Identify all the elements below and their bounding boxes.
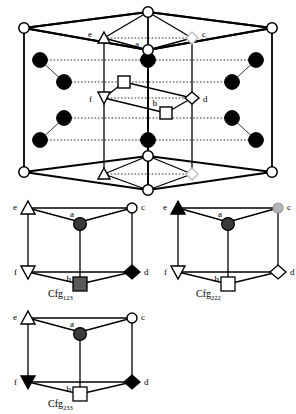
main-label-a: a xyxy=(135,39,139,49)
cfg233-label-d: d xyxy=(144,377,149,387)
cfg222-label-b: b xyxy=(215,274,220,284)
cfg123-label-c: c xyxy=(141,202,145,212)
main-site-b xyxy=(160,107,172,119)
cfg222-label-f: f xyxy=(164,267,167,277)
main-site-bottom-triangle xyxy=(98,168,110,179)
main-label-f: f xyxy=(89,94,92,104)
cfg233-site-a xyxy=(74,328,87,341)
figure-root: e a c f b d xyxy=(0,0,296,414)
cfg123-caption: Cfg123 xyxy=(48,288,73,301)
cfg222-caption-subscript: 222 xyxy=(211,294,221,301)
main-site-bottom-diamond xyxy=(186,168,198,180)
main-site-e xyxy=(98,32,110,43)
cfg233-label-e: e xyxy=(13,312,17,322)
main-label-c: c xyxy=(202,29,206,39)
cfg233-label-c: c xyxy=(141,312,145,322)
cfg123-site-b xyxy=(73,277,87,291)
cfg123-caption-name: Cfg xyxy=(48,288,63,299)
cfg123-label-f: f xyxy=(14,267,17,277)
cfg222-site-c xyxy=(273,203,283,213)
config-cfg-123: e a c f b d Cfg123 xyxy=(13,201,149,301)
cfg222-caption-name: Cfg xyxy=(196,288,211,299)
config-cfg-233: e a c f b d Cfg233 xyxy=(13,311,149,411)
cfg222-label-d: d xyxy=(290,267,295,277)
main-label-b: b xyxy=(153,98,158,108)
cfg222-label-e: e xyxy=(163,202,167,212)
cfg123-label-d: d xyxy=(144,267,149,277)
cfg233-caption-subscript: 233 xyxy=(63,404,73,411)
config-cfg-222: e a c f b d Cfg222 xyxy=(163,201,295,301)
crystal-structure-diagram: e a c f b d xyxy=(0,0,296,414)
cfg222-site-d xyxy=(270,265,286,279)
cfg233-caption: Cfg233 xyxy=(48,398,73,411)
cfg222-site-a xyxy=(222,218,235,231)
cfg123-label-a: a xyxy=(70,209,74,219)
cfg123-site-a xyxy=(74,218,87,231)
main-label-d: d xyxy=(203,94,208,104)
hcp-unit-cell: e a c f b d xyxy=(19,7,277,195)
cfg123-caption-subscript: 123 xyxy=(63,294,73,301)
cfg222-label-a: a xyxy=(218,209,222,219)
cfg233-label-a: a xyxy=(70,319,74,329)
main-site-mid-square xyxy=(118,76,130,88)
cfg233-site-c xyxy=(127,313,137,323)
cfg123-site-d xyxy=(124,265,140,279)
cfg233-label-b: b xyxy=(67,384,72,394)
cfg123-site-c xyxy=(127,203,137,213)
cfg123-label-e: e xyxy=(13,202,17,212)
cfg233-caption-name: Cfg xyxy=(48,398,63,409)
cfg233-site-d xyxy=(124,375,140,389)
cfg222-label-c: c xyxy=(287,202,291,212)
main-label-e: e xyxy=(88,29,92,39)
cfg222-caption: Cfg222 xyxy=(196,288,221,301)
cfg233-site-b xyxy=(73,387,87,401)
main-site-d xyxy=(185,92,199,104)
cfg222-site-b xyxy=(221,277,235,291)
cfg123-label-b: b xyxy=(67,274,72,284)
cfg233-label-f: f xyxy=(14,377,17,387)
